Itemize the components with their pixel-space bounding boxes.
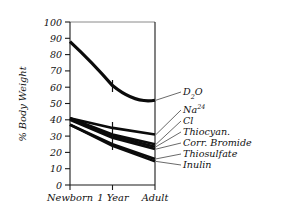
y-tick-label-50: 50 [50, 98, 62, 109]
y-tick-label-100: 100 [44, 17, 62, 28]
series-label-inulin: Inulin [182, 159, 211, 170]
y-tick-label-30: 30 [50, 131, 62, 142]
y-axis-ticks [65, 22, 70, 185]
series-label-thiosulfate: Thiosulfate [183, 148, 238, 159]
x-axis-ticks [70, 185, 155, 190]
y-tick-label-90: 90 [50, 33, 62, 44]
y-tick-label-10: 10 [50, 163, 62, 174]
y-tick-label-70: 70 [50, 65, 62, 76]
series-label-corr-bromide: Corr. Bromide [183, 137, 252, 148]
x-tick-label-newborn: Newborn [46, 192, 93, 203]
y-tick-label-60: 60 [50, 82, 62, 93]
x-tick-label-1year: 1 Year [97, 192, 130, 203]
x-tick-label-adult: Adult [141, 192, 169, 203]
series-label-thiocyanate: Thiocyan. [183, 126, 230, 137]
label-leader-lines [156, 92, 181, 165]
y-tick-label-20: 20 [49, 147, 62, 158]
series-label-na24: Na24 [182, 103, 205, 115]
line-chart: 100 90 80 70 60 50 40 30 20 10 0 Newborn… [0, 0, 282, 212]
y-tick-label-0: 0 [56, 180, 62, 191]
series-label-cl: Cl [183, 115, 193, 126]
series-label-d2o: D2O [182, 86, 203, 101]
y-tick-label-80: 80 [50, 49, 62, 60]
y-tick-label-40: 40 [49, 114, 62, 125]
chart-container: 100 90 80 70 60 50 40 30 20 10 0 Newborn… [0, 0, 282, 212]
y-axis-title: % Body Weight [17, 66, 28, 141]
